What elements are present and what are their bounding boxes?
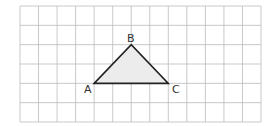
vertex-label-a: A bbox=[84, 83, 92, 96]
vertex-label-b: B bbox=[127, 32, 135, 45]
vertex-label-c: C bbox=[172, 83, 180, 96]
grid-diagram: A B C bbox=[0, 0, 273, 126]
